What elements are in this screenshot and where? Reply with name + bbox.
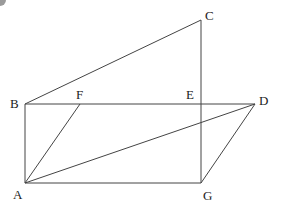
label-b: B bbox=[10, 96, 19, 111]
point-labels: A B C D E F G bbox=[10, 8, 268, 203]
segment-bc bbox=[25, 20, 201, 104]
segment-af bbox=[25, 104, 80, 183]
label-d: D bbox=[259, 93, 268, 108]
label-e: E bbox=[186, 87, 194, 102]
segments bbox=[25, 20, 255, 183]
label-f: F bbox=[76, 87, 83, 102]
label-g: G bbox=[203, 188, 212, 203]
label-a: A bbox=[13, 187, 23, 202]
label-c: C bbox=[205, 8, 214, 23]
geometry-diagram: A B C D E F G bbox=[0, 0, 284, 207]
segment-dg bbox=[201, 104, 255, 183]
segment-ad bbox=[25, 104, 255, 183]
corner-mark bbox=[0, 0, 6, 6]
